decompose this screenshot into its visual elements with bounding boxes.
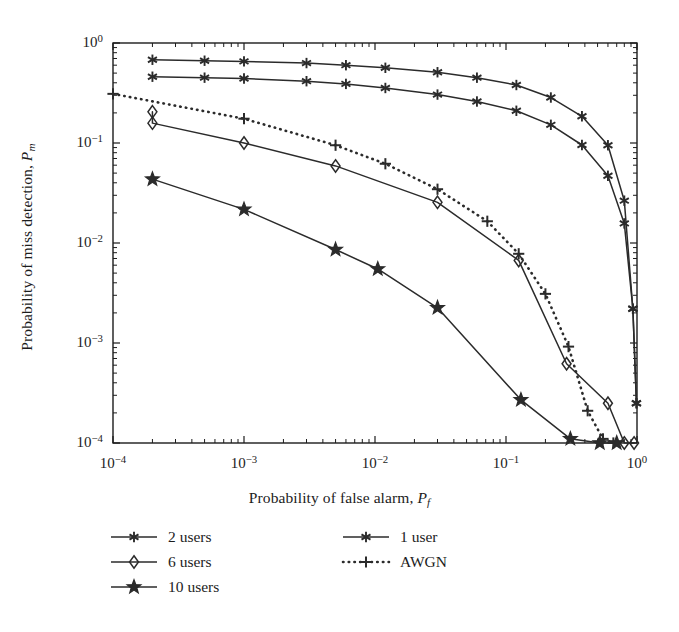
y-axis-title: Probability of miss detection, Pm [18,143,37,350]
y-tick-exponent: −4 [92,432,104,444]
legend-sample [340,526,392,548]
x-tick-base: 10 [362,455,377,471]
legend-entry-1-user[interactable]: 1 user [340,524,447,549]
legend-marker-diamond-icon [108,551,160,573]
legend-label: 2 users [160,528,211,546]
y-tick-label: 10−4 [41,432,103,451]
x-tick-exponent: −4 [115,453,127,465]
x-tick-base: 10 [231,455,246,471]
legend-entry-6-users[interactable]: 6 users [108,549,219,574]
legend-sample [108,576,160,598]
y-axis-title-wrapper: Probability of miss detection, Pm [18,22,40,472]
y-tick-label: 100 [41,32,103,51]
y-tick-base: 10 [77,134,92,150]
x-tick-base: 10 [627,455,642,471]
x-axis-title-subscript: f [427,496,430,508]
x-tick-exponent: 0 [642,453,647,465]
legend-marker-asterisk-icon [340,526,392,548]
y-tick-exponent: −1 [92,132,104,144]
x-tick-label: 100 [607,453,667,472]
x-tick-label: 10−2 [345,453,405,472]
x-tick-label: 10−3 [214,453,274,472]
y-tick-label: 10−2 [41,232,103,251]
axis-ticks [113,43,637,443]
x-tick-label: 10−1 [476,453,536,472]
y-tick-label: 10−1 [41,132,103,151]
figure-container: 10−410−310−210−1100 10010−110−210−310−4 … [0,0,679,632]
y-tick-label: 10−3 [41,332,103,351]
series-2-users [148,55,641,409]
x-axis-title-text: Probability of false alarm, [249,489,418,506]
x-tick-base: 10 [100,455,115,471]
legend-entry-2-users[interactable]: 2 users [108,524,219,549]
legend-label: 1 user [392,528,437,546]
chart-legend: 2 users6 users10 users 1 userAWGN [108,524,568,602]
legend-column-left: 2 users6 users10 users [108,524,219,599]
legend-entry-10-users[interactable]: 10 users [108,574,219,599]
legend-sample [108,526,160,548]
legend-marker-star-icon [108,576,160,598]
legend-label: 6 users [160,553,211,571]
y-tick-exponent: 0 [98,32,103,44]
legend-label: AWGN [392,553,447,571]
legend-marker-asterisk-icon [108,526,160,548]
x-axis-title-variable: P [417,489,427,506]
x-tick-exponent: −1 [508,453,520,465]
x-axis-title: Probability of false alarm, Pf [0,489,679,508]
y-axis-title-variable: P [18,152,35,162]
series-6-users [148,106,639,450]
legend-label: 10 users [160,578,219,596]
y-tick-exponent: −3 [92,332,104,344]
y-tick-exponent: −2 [92,232,104,244]
y-tick-base: 10 [77,334,92,350]
legend-column-right: 1 userAWGN [340,524,447,574]
x-tick-exponent: −2 [377,453,389,465]
x-tick-base: 10 [493,455,508,471]
legend-marker-plus-icon [340,551,392,573]
y-tick-base: 10 [77,234,92,250]
y-tick-base: 10 [83,34,98,50]
x-tick-exponent: −3 [246,453,258,465]
legend-entry-awgn[interactable]: AWGN [340,549,447,574]
series-awgn [107,88,619,448]
data-series-group [107,55,641,450]
axes-frame [113,43,637,443]
series-10-users [146,172,624,449]
y-axis-title-text: Probability of miss detection, [18,161,35,351]
legend-sample [340,551,392,573]
y-tick-base: 10 [77,434,92,450]
x-tick-label: 10−4 [83,453,143,472]
y-axis-title-subscript: m [25,143,37,151]
legend-sample [108,551,160,573]
